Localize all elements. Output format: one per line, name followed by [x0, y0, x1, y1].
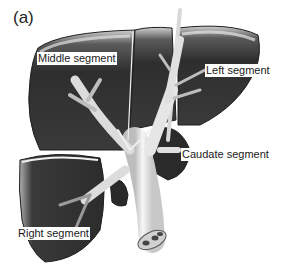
left-segment-label: Left segment	[205, 64, 271, 77]
liver-segment-diagram: (a) Middle segment Left segment Caudate …	[0, 0, 292, 274]
panel-label: (a)	[13, 8, 34, 28]
middle-segment-label: Middle segment	[37, 52, 117, 65]
right-segment-label: Right segment	[17, 227, 90, 240]
right-segment-lobe	[19, 154, 104, 262]
caudate-segment-label: Caudate segment	[181, 148, 270, 161]
